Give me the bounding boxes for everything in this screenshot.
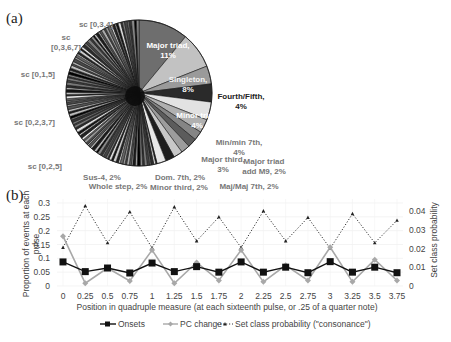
x-tick: 2.25 bbox=[255, 291, 272, 301]
marker-square bbox=[304, 269, 311, 276]
series-pc-change bbox=[63, 236, 397, 283]
line-chart: 00.050.10.150.20.250.300.250.50.7511.251… bbox=[0, 0, 451, 342]
marker-square bbox=[104, 265, 111, 272]
x-tick: 0.25 bbox=[77, 291, 94, 301]
legend-onsets: Onsets bbox=[118, 319, 145, 329]
marker-square bbox=[171, 268, 178, 275]
x-tick: 3.25 bbox=[344, 291, 361, 301]
series-set-class bbox=[63, 206, 397, 249]
y-tick: 0 bbox=[45, 281, 50, 291]
y-axis-title: Proportion of events at each bbox=[21, 191, 31, 298]
marker-triangle bbox=[128, 210, 132, 213]
marker-square bbox=[149, 260, 156, 267]
x-tick: 1 bbox=[150, 291, 155, 301]
x-tick: 1.25 bbox=[166, 291, 183, 301]
x-tick: 1.75 bbox=[211, 291, 228, 301]
marker-triangle bbox=[395, 218, 399, 221]
legend-pc-change: PC change bbox=[180, 319, 222, 329]
x-tick: 0 bbox=[61, 291, 66, 301]
marker-square bbox=[193, 263, 200, 270]
marker-square bbox=[126, 269, 133, 276]
marker-triangle bbox=[173, 205, 177, 208]
y2-tick: 0.01 bbox=[409, 262, 426, 272]
x-tick: 2 bbox=[239, 291, 244, 301]
marker-square bbox=[215, 269, 222, 276]
x-tick: 0.75 bbox=[122, 291, 139, 301]
x-tick: 3.75 bbox=[389, 291, 406, 301]
marker-triangle bbox=[61, 246, 65, 249]
marker-square bbox=[60, 258, 67, 265]
marker-square bbox=[238, 258, 245, 265]
marker-triangle bbox=[262, 209, 266, 212]
y2-tick: 0.03 bbox=[409, 225, 426, 235]
y-tick: 0.05 bbox=[33, 267, 50, 277]
x-axis-title: Position in quadruple measure (at each s… bbox=[77, 302, 378, 312]
marker-square bbox=[282, 264, 289, 271]
marker-square bbox=[394, 269, 401, 276]
x-tick: 1.5 bbox=[191, 291, 203, 301]
legend-set-class: Set class probability ("consonance") bbox=[235, 319, 371, 329]
x-tick: 3 bbox=[328, 291, 333, 301]
marker-triangle bbox=[106, 241, 110, 244]
legend: OnsetsPC changeSet class probability ("c… bbox=[100, 319, 371, 329]
y2-tick: 0.04 bbox=[409, 206, 426, 216]
marker-square bbox=[371, 264, 378, 271]
marker-triangle bbox=[83, 204, 87, 207]
marker-square bbox=[349, 269, 356, 276]
marker-diamond bbox=[60, 233, 66, 239]
y-axis-title: pulse bbox=[31, 234, 41, 255]
x-tick: 2.5 bbox=[280, 291, 292, 301]
x-tick: 2.75 bbox=[300, 291, 317, 301]
x-tick: 0.5 bbox=[102, 291, 114, 301]
y-tick: 0.3 bbox=[38, 198, 50, 208]
marker-triangle bbox=[351, 212, 355, 215]
x-tick: 3.5 bbox=[369, 291, 381, 301]
marker-square bbox=[327, 258, 334, 265]
y-tick: 0.25 bbox=[33, 212, 50, 222]
marker-triangle bbox=[284, 239, 288, 242]
marker-square bbox=[82, 268, 89, 275]
marker-square bbox=[260, 269, 267, 276]
y2-axis-title: Set class probability bbox=[429, 201, 439, 277]
y2-tick: 0 bbox=[409, 281, 414, 291]
y2-tick: 0.02 bbox=[409, 244, 426, 254]
marker-triangle bbox=[306, 216, 310, 219]
